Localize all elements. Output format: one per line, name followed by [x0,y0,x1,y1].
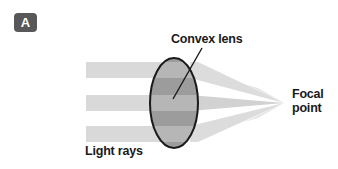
light-rays-label: Light rays [85,145,143,158]
panel-badge: A [14,13,37,32]
outgoing-rays-group [190,62,284,142]
focal-point-label-line1: Focal [292,87,324,101]
focal-point-label-line2: point [292,101,324,115]
lens-band-middle [148,95,202,111]
optics-ray-diagram [0,0,338,169]
figure-panel-a: A Convex lens Light rays Focal point [0,0,338,169]
focal-point-label: Focal point [292,87,324,115]
convex-lens-label: Convex lens [171,33,242,46]
